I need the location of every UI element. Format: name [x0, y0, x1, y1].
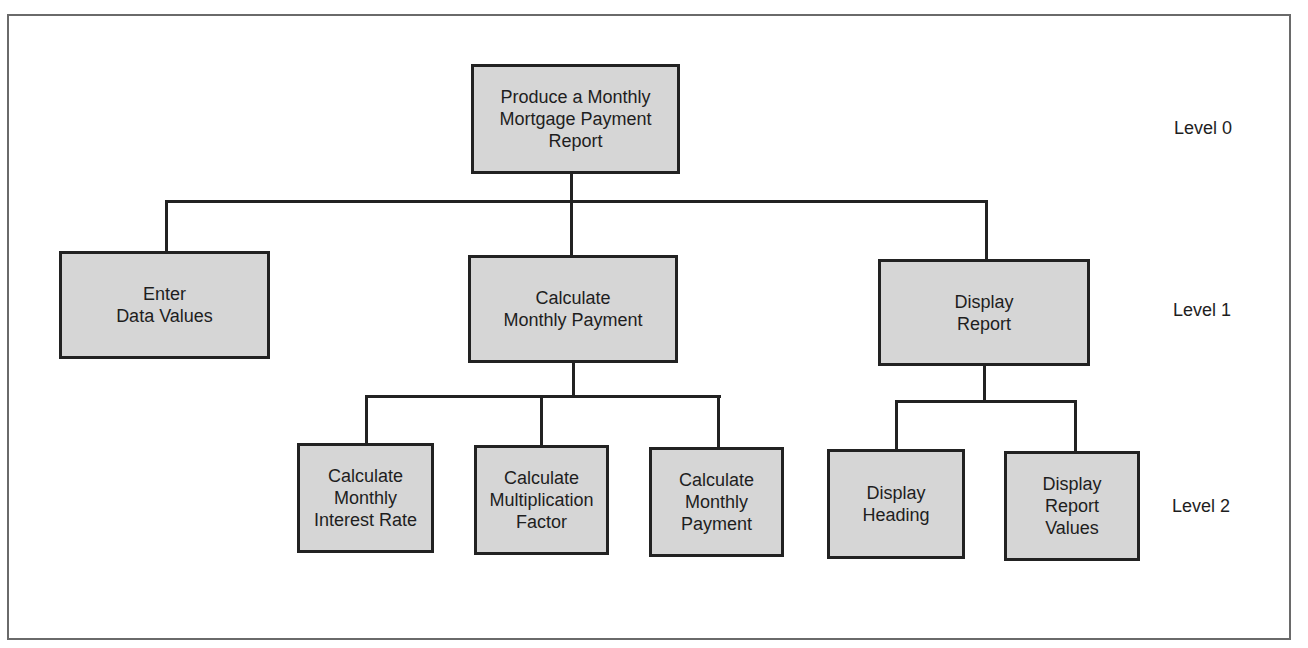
connector-root-stem — [570, 172, 573, 203]
connector-to-enter — [165, 200, 168, 254]
node-label: Calculate Monthly Interest Rate — [314, 465, 417, 531]
node-label: Calculate Multiplication Factor — [489, 467, 593, 533]
connector-to-calc-factor — [540, 395, 543, 447]
node-enter-data-values: Enter Data Values — [59, 251, 270, 359]
connector-to-calc-payment — [717, 395, 720, 449]
node-calculate-multiplication-factor: Calculate Multiplication Factor — [474, 445, 609, 555]
node-calculate-monthly-payment: Calculate Monthly Payment — [468, 255, 678, 363]
connector-to-calc — [570, 200, 573, 258]
node-label: Display Report Values — [1042, 473, 1101, 539]
node-label: Produce a Monthly Mortgage Payment Repor… — [499, 86, 651, 152]
connector-display-bus — [895, 400, 1077, 403]
node-calculate-monthly-payment-sub: Calculate Monthly Payment — [649, 447, 784, 557]
connector-to-calc-rate — [365, 395, 368, 445]
level-0-label: Level 0 — [1174, 118, 1232, 139]
node-display-report: Display Report — [878, 259, 1090, 366]
node-display-heading: Display Heading — [827, 449, 965, 559]
level-1-label: Level 1 — [1173, 300, 1231, 321]
connector-to-disp-heading — [895, 400, 898, 452]
node-label: Calculate Monthly Payment — [503, 287, 642, 331]
node-display-report-values: Display Report Values — [1004, 451, 1140, 561]
node-label: Display Heading — [862, 482, 929, 526]
connector-calc-bus — [365, 395, 721, 398]
connector-to-display — [985, 200, 988, 262]
node-label: Calculate Monthly Payment — [679, 469, 754, 535]
node-label: Enter Data Values — [116, 283, 213, 327]
connector-calc-stem — [572, 360, 575, 398]
level-2-label: Level 2 — [1172, 496, 1230, 517]
node-label: Display Report — [954, 291, 1013, 335]
connector-display-stem — [983, 364, 986, 403]
node-produce-report: Produce a Monthly Mortgage Payment Repor… — [471, 64, 680, 174]
connector-to-disp-values — [1074, 400, 1077, 454]
connector-level1-bus — [165, 200, 988, 203]
node-calculate-monthly-interest-rate: Calculate Monthly Interest Rate — [297, 443, 434, 553]
